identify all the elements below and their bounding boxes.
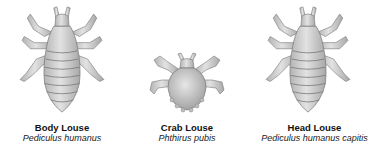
head-louse-common-name: Head Louse <box>248 122 381 133</box>
crab-louse-illustration-icon <box>148 52 226 114</box>
crab-louse-scientific-name: Phthirus pubis <box>127 133 247 144</box>
crab-louse-figure <box>148 52 226 114</box>
body-louse-caption: Body Louse Pediculus humanus <box>0 122 124 144</box>
head-louse-scientific-name: Pediculus humanus capitis <box>248 133 381 144</box>
body-louse-common-name: Body Louse <box>0 122 124 133</box>
crab-louse-common-name: Crab Louse <box>127 122 247 133</box>
body-louse-scientific-name: Pediculus humanus <box>0 133 124 144</box>
head-louse-illustration-icon <box>262 0 354 118</box>
head-louse-caption: Head Louse Pediculus humanus capitis <box>248 122 381 144</box>
body-louse-illustration-icon <box>16 0 108 118</box>
crab-louse-caption: Crab Louse Phthirus pubis <box>127 122 247 144</box>
